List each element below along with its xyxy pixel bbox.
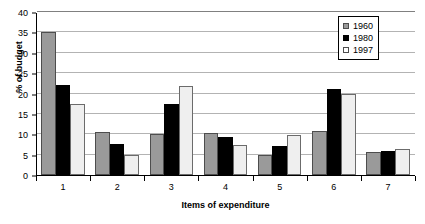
- bar: [124, 155, 139, 175]
- legend-swatch-icon: [343, 47, 349, 53]
- bar: [164, 104, 179, 175]
- legend: 196019801997: [338, 16, 379, 60]
- bar: [258, 155, 273, 175]
- x-tick-mark: [36, 176, 37, 181]
- x-tick-mark: [144, 176, 145, 181]
- x-axis-title: Items of expenditure: [36, 200, 415, 210]
- x-tick-label: 6: [331, 182, 336, 192]
- legend-label: 1980: [353, 34, 373, 43]
- bar: [272, 146, 287, 175]
- y-tick-label: 30: [18, 49, 28, 59]
- y-tick-label: 20: [18, 90, 28, 100]
- bar: [381, 151, 396, 175]
- x-tick-mark: [198, 176, 199, 181]
- bar: [110, 144, 125, 175]
- bar: [233, 145, 248, 175]
- bar: [56, 85, 71, 175]
- x-tick-mark: [253, 176, 254, 181]
- bar: [218, 137, 233, 175]
- x-tick-mark: [90, 176, 91, 181]
- y-tick-label: 40: [18, 8, 28, 18]
- x-tick-mark: [361, 176, 362, 181]
- y-axis-ticks: 0510152025303540: [0, 13, 36, 176]
- bar-group: [200, 13, 254, 175]
- bar-group: [38, 13, 92, 175]
- y-tick-label: 5: [23, 151, 28, 161]
- bar: [327, 89, 342, 175]
- legend-swatch-icon: [343, 35, 349, 41]
- bar: [204, 133, 219, 175]
- bar-group: [146, 13, 200, 175]
- x-tick-label: 3: [169, 182, 174, 192]
- x-tick-label: 5: [277, 182, 282, 192]
- y-tick-label: 10: [18, 130, 28, 140]
- bar: [312, 131, 327, 175]
- bar: [150, 134, 165, 175]
- y-tick-label: 25: [18, 69, 28, 79]
- legend-swatch-icon: [343, 23, 349, 29]
- legend-item: 1960: [343, 20, 373, 32]
- x-tick-label: 4: [223, 182, 228, 192]
- y-tick-label: 15: [18, 110, 28, 120]
- bar: [70, 104, 85, 175]
- bar-group: [92, 13, 146, 175]
- legend-label: 1997: [353, 46, 373, 55]
- bar: [287, 135, 302, 175]
- bar: [41, 32, 56, 175]
- gridline: [37, 11, 415, 12]
- y-tick-label: 0: [23, 171, 28, 181]
- bar: [95, 132, 110, 175]
- bar: [395, 149, 410, 175]
- y-tick-label: 35: [18, 28, 28, 38]
- legend-item: 1980: [343, 32, 373, 44]
- legend-item: 1997: [343, 44, 373, 56]
- x-axis-ticks: 1234567: [36, 176, 415, 198]
- x-tick-label: 1: [61, 182, 66, 192]
- x-tick-label: 2: [115, 182, 120, 192]
- bar-chart: % of budget 0510152025303540 1234567 Ite…: [0, 0, 425, 224]
- x-tick-mark: [307, 176, 308, 181]
- bar: [179, 86, 194, 175]
- bar-group: [255, 13, 309, 175]
- bar: [366, 152, 381, 175]
- x-tick-label: 7: [385, 182, 390, 192]
- x-tick-mark: [415, 176, 416, 181]
- bar: [341, 94, 356, 176]
- legend-label: 1960: [353, 22, 373, 31]
